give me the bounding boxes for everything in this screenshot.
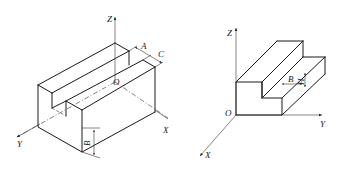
- left-rib-top-front: [38, 85, 52, 93]
- dim-label-a: A: [140, 41, 147, 51]
- right-origin-label: O: [225, 108, 232, 118]
- left-axes: [17, 17, 168, 137]
- ext-line: [129, 46, 137, 51]
- right-block-front-face: [236, 82, 282, 115]
- right-dim-label-b: B: [288, 74, 294, 84]
- right-dim-label-h: H: [296, 78, 306, 86]
- left-dim-b: B: [82, 128, 100, 158]
- right-figure: B H Z O Y X: [200, 28, 326, 160]
- left-origin-label: O: [113, 77, 120, 87]
- left-x-axis: [155, 110, 168, 119]
- left-z-label: Z: [107, 14, 113, 24]
- left-y-label: Y: [17, 139, 23, 149]
- left-hidden-line: [52, 108, 66, 116]
- left-front-rib-top-front: [66, 101, 82, 110]
- dim-label-c: C: [158, 49, 165, 59]
- left-rib-top-back: [115, 43, 129, 51]
- left-dim-ac: A C: [129, 41, 165, 67]
- left-rib-top-left: [38, 43, 115, 85]
- right-lower-left-edge: [262, 57, 303, 98]
- left-x-label: X: [162, 125, 169, 135]
- right-y-label: Y: [320, 119, 326, 129]
- right-axes: [200, 28, 322, 156]
- left-figure: A C B Z O Y X: [17, 14, 169, 158]
- right-top-right-edge: [262, 41, 303, 82]
- left-block-front-face: [38, 85, 82, 152]
- ext-line: [82, 152, 100, 158]
- left-x-axis-dashed: [115, 82, 168, 118]
- left-block-bottom-edge: [82, 112, 155, 152]
- dim-label-b: B: [82, 140, 92, 146]
- right-x-label: X: [204, 150, 211, 160]
- right-z-label: Z: [227, 28, 233, 38]
- left-slot-floor-front: [52, 101, 66, 108]
- left-y-axis: [17, 124, 40, 137]
- right-top-left-edge: [236, 41, 277, 82]
- diagram-canvas: A C B Z O Y X: [0, 0, 340, 176]
- right-block: [236, 41, 325, 115]
- left-front-rib-top-back: [143, 60, 155, 67]
